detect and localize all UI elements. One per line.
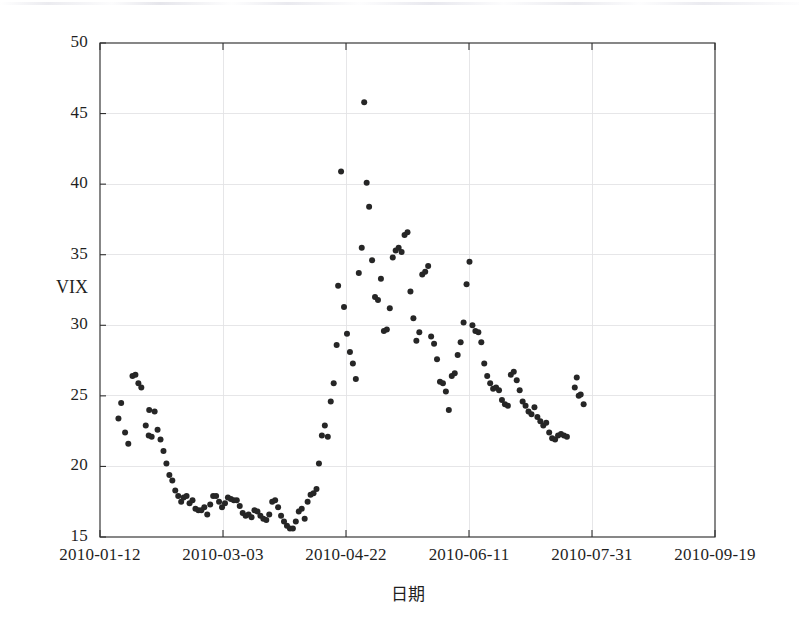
data-point — [431, 341, 437, 347]
y-tick-label: 25 — [32, 385, 88, 405]
data-point — [428, 334, 434, 340]
data-point — [464, 281, 470, 287]
x-axis-title: 日期 — [308, 580, 508, 605]
data-point — [163, 461, 169, 467]
data-point — [160, 448, 166, 454]
data-point — [369, 257, 375, 263]
data-point — [316, 461, 322, 467]
data-point — [338, 168, 344, 174]
data-point — [263, 517, 269, 523]
data-point — [266, 511, 272, 517]
data-point — [572, 384, 578, 390]
data-point — [407, 288, 413, 294]
data-point — [455, 352, 461, 358]
data-point — [319, 432, 325, 438]
data-point — [115, 415, 121, 421]
data-point — [475, 329, 481, 335]
data-point — [331, 380, 337, 386]
data-point — [172, 487, 178, 493]
data-point — [387, 305, 393, 311]
data-point — [405, 229, 411, 235]
data-point — [469, 322, 475, 328]
data-point — [325, 434, 331, 440]
data-point — [118, 400, 124, 406]
data-point — [132, 372, 138, 378]
x-tick-label: 2010-06-11 — [409, 545, 529, 565]
x-tick-label: 2010-07-31 — [532, 545, 652, 565]
data-point — [237, 503, 243, 509]
data-point — [234, 497, 240, 503]
data-point — [458, 339, 464, 345]
data-point — [328, 399, 334, 405]
data-point — [484, 373, 490, 379]
data-point — [322, 423, 328, 429]
data-point — [175, 493, 181, 499]
data-point — [190, 497, 196, 503]
x-tick-label: 2010-01-12 — [40, 545, 160, 565]
x-tick-label: 2010-09-19 — [655, 545, 775, 565]
data-point — [364, 180, 370, 186]
tick-marks-group — [100, 43, 715, 537]
data-point — [440, 380, 446, 386]
scatter-plot-canvas — [0, 0, 799, 624]
data-point — [166, 472, 172, 478]
data-point — [222, 500, 228, 506]
data-point — [302, 516, 308, 522]
data-point — [313, 486, 319, 492]
data-point — [146, 407, 152, 413]
data-point — [466, 259, 472, 265]
data-point — [125, 441, 131, 447]
data-point — [443, 389, 449, 395]
data-point — [425, 263, 431, 269]
data-point — [517, 387, 523, 393]
y-tick-label: 15 — [32, 526, 88, 546]
data-point — [350, 360, 356, 366]
data-point — [299, 506, 305, 512]
data-point — [155, 427, 161, 433]
data-point — [344, 331, 350, 337]
data-point — [543, 420, 549, 426]
y-tick-label: 30 — [32, 314, 88, 334]
data-point — [335, 283, 341, 289]
data-point — [361, 99, 367, 105]
data-point — [574, 375, 580, 381]
data-point — [204, 511, 210, 517]
y-tick-label: 35 — [32, 244, 88, 264]
data-point — [149, 434, 155, 440]
data-point — [390, 255, 396, 261]
y-tick-label: 40 — [32, 173, 88, 193]
data-point — [216, 499, 222, 505]
data-point — [523, 403, 529, 409]
data-point — [249, 514, 255, 520]
data-point — [275, 504, 281, 510]
data-point — [452, 370, 458, 376]
x-tick-label: 2010-03-03 — [163, 545, 283, 565]
data-point — [446, 407, 452, 413]
data-point — [511, 369, 517, 375]
data-point — [399, 249, 405, 255]
data-point — [413, 338, 419, 344]
data-point — [434, 356, 440, 362]
y-tick-label: 50 — [32, 32, 88, 52]
data-point — [122, 430, 128, 436]
data-point — [578, 391, 584, 397]
figure-canvas: 1520253035404550 2010-01-122010-03-03201… — [0, 0, 799, 624]
data-point — [416, 329, 422, 335]
x-tick-label: 2010-04-22 — [286, 545, 406, 565]
data-point — [290, 526, 296, 532]
data-point — [410, 315, 416, 321]
data-point — [347, 349, 353, 355]
y-axis-title: VIX — [10, 277, 88, 298]
data-point — [505, 403, 511, 409]
data-point — [213, 493, 219, 499]
y-tick-label: 20 — [32, 455, 88, 475]
y-tick-label: 45 — [32, 103, 88, 123]
data-point — [152, 408, 158, 414]
data-point — [169, 478, 175, 484]
data-point — [207, 502, 213, 508]
data-point — [158, 437, 164, 443]
data-point — [487, 380, 493, 386]
data-point — [366, 204, 372, 210]
data-point — [353, 376, 359, 382]
data-point — [201, 504, 207, 510]
